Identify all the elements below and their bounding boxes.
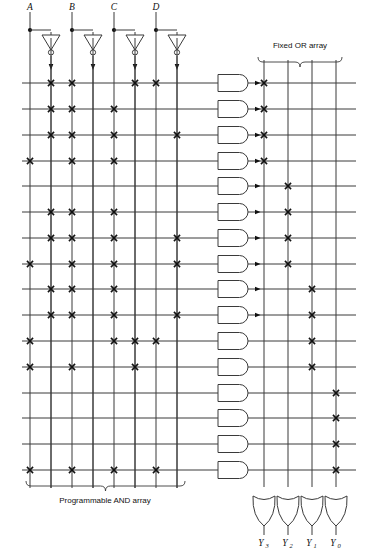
or-gate-icon-2 [277,496,299,526]
input-label-b: B [69,2,75,12]
or-array-caption: Fixed OR array [273,41,327,50]
and-gate-icon-2 [218,101,248,118]
input-label-d: D [152,2,160,12]
curly-brace-icon-or-array [258,57,342,67]
and-gate-icon-1 [218,75,248,92]
or-gate-icon-1 [253,496,275,526]
arrow-head-icon [255,313,261,317]
and-gate-icon-6 [218,204,248,221]
arrow-head-icon [255,107,261,111]
and-gate-icon-16 [218,462,248,479]
output-subscript-2: 2 [289,542,293,549]
or-gate-icon-3 [301,496,323,526]
arrow-head-icon [255,262,261,266]
input-label-a: A [26,2,33,12]
and-gate-icon-13 [218,385,248,402]
arrow-head-icon [255,184,261,188]
arrow-head-icon [255,159,261,163]
curly-brace-icon-and-array [26,481,185,491]
output-label-y1: Y [306,538,313,548]
figure-canvas: ABCDY3Y2Y1Y0Programmable AND arrayFixed … [0,0,369,550]
arrow-head-icon [255,81,261,85]
and-gate-icon-7 [218,230,248,247]
input-label-c: C [111,2,118,12]
arrow-head-icon [255,133,261,137]
and-gate-icon-5 [218,178,248,195]
and-gate-icon-4 [218,153,248,170]
arrow-head-icon [255,210,261,214]
and-array-caption: Programmable AND array [59,496,151,505]
diagram-generated-layer: ABCDY3Y2Y1Y0Programmable AND arrayFixed … [22,2,356,549]
output-subscript-0: 0 [337,542,341,549]
and-gate-icon-10 [218,307,248,324]
output-label-y0: Y [330,538,337,548]
or-gate-icon-4 [325,496,347,526]
arrow-head-icon [255,287,261,291]
and-gate-icon-3 [218,127,248,144]
and-gate-icon-9 [218,281,248,298]
output-label-y3: Y [258,538,265,548]
output-subscript-3: 3 [264,542,269,549]
and-gate-icon-11 [218,333,248,350]
output-label-y2: Y [282,538,289,548]
and-gate-icon-15 [218,436,248,453]
arrow-head-icon [255,236,261,240]
and-gate-icon-8 [218,256,248,273]
prom-logic-diagram: ABCDY3Y2Y1Y0Programmable AND arrayFixed … [0,0,369,550]
and-gate-icon-14 [218,410,248,427]
output-subscript-1: 1 [313,542,316,549]
and-gate-icon-12 [218,359,248,376]
